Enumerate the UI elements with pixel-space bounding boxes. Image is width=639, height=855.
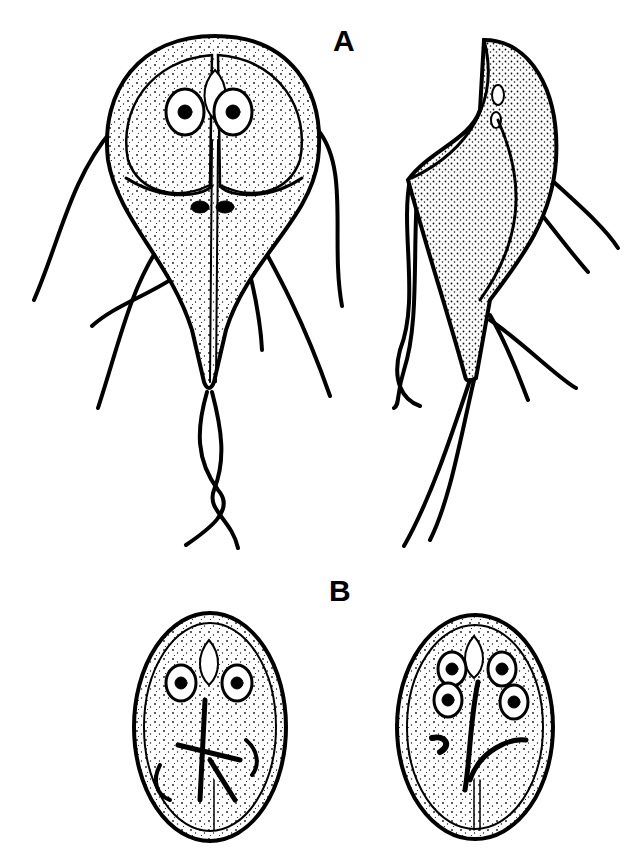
cyst-binucleate (134, 613, 286, 841)
trophozoite-front (34, 36, 342, 548)
trophozoite-side (394, 40, 618, 546)
cyst-quadrinucleate (397, 615, 553, 839)
illustration (0, 0, 639, 855)
